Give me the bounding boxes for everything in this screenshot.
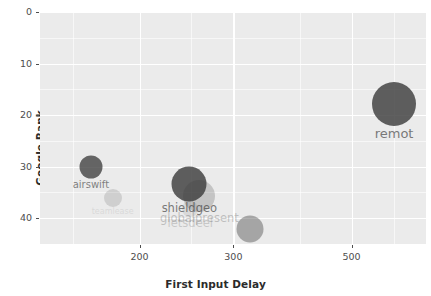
gridline-minor-vertical xyxy=(300,12,301,244)
y-tick-label: 0 xyxy=(0,6,32,17)
y-tick-mark xyxy=(36,167,39,168)
data-point-bubble[interactable] xyxy=(236,215,263,242)
data-point-bubble[interactable] xyxy=(79,155,102,178)
x-tick-label: 300 xyxy=(203,251,263,262)
data-point-bubble[interactable] xyxy=(372,82,416,126)
scatter-chart: Google Rank First Input Delay 010203040 … xyxy=(0,0,431,296)
data-point-bubble[interactable] xyxy=(104,189,122,207)
plot-panel: airswiftteamleaseshieldgeoglobalpresentl… xyxy=(40,12,426,244)
data-point-label: letsdeel xyxy=(168,218,213,230)
gridline-major-vertical xyxy=(352,12,353,244)
y-tick-label: 10 xyxy=(0,58,32,69)
data-point-label: teamlease xyxy=(92,208,134,216)
gridline-minor-vertical xyxy=(73,12,74,244)
y-tick-mark xyxy=(36,64,39,65)
y-tick-label: 20 xyxy=(0,109,32,120)
x-axis-title: First Input Delay xyxy=(0,278,431,290)
data-point-label: remot xyxy=(375,127,414,140)
x-tick-label: 500 xyxy=(322,251,382,262)
gridline-major-vertical xyxy=(140,12,141,244)
y-tick-label: 40 xyxy=(0,212,32,223)
y-tick-mark xyxy=(36,218,39,219)
y-tick-label: 30 xyxy=(0,161,32,172)
y-tick-mark xyxy=(36,12,39,13)
y-tick-mark xyxy=(36,115,39,116)
x-tick-mark xyxy=(140,245,141,248)
data-point-label: airswift xyxy=(73,180,109,190)
gridline-major-vertical xyxy=(233,12,234,244)
x-tick-mark xyxy=(352,245,353,248)
x-tick-mark xyxy=(233,245,234,248)
x-tick-label: 200 xyxy=(110,251,170,262)
